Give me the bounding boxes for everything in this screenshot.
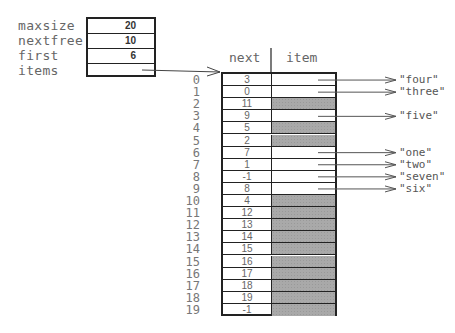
arrows-layer — [0, 0, 455, 333]
item-pointer-arrow — [318, 186, 396, 192]
item-pointer-arrow — [318, 113, 396, 119]
item-pointer-arrow — [318, 174, 396, 180]
item-pointer-arrow — [318, 150, 396, 156]
item-pointer-arrow — [318, 162, 396, 168]
item-pointer-arrow — [318, 77, 396, 83]
item-pointer-arrow — [318, 89, 396, 95]
items-pointer-arrow — [142, 67, 220, 76]
